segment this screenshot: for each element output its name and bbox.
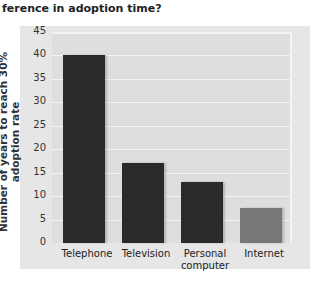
y-tick-label: 10 (28, 189, 46, 200)
bar-telephone (63, 55, 105, 243)
y-tick-label: 30 (28, 95, 46, 106)
y-tick-label: 25 (28, 119, 46, 130)
y-tick-label: 15 (28, 166, 46, 177)
x-label-internet: Internet (229, 248, 299, 260)
y-tick-label: 5 (28, 213, 46, 224)
y-tick-label: 45 (28, 25, 46, 36)
gridline (52, 32, 292, 33)
question-text: ference in adoption time? (2, 2, 162, 15)
y-axis-label: Number of years to reach 30% adoption ra… (0, 37, 21, 247)
y-tick-label: 20 (28, 142, 46, 153)
y-tick-label: 35 (28, 72, 46, 83)
bar-internet (240, 208, 282, 243)
bar-personal-computer (181, 182, 223, 243)
y-tick-label: 40 (28, 48, 46, 59)
bar-television (122, 163, 164, 243)
y-tick-label: 0 (28, 236, 46, 247)
